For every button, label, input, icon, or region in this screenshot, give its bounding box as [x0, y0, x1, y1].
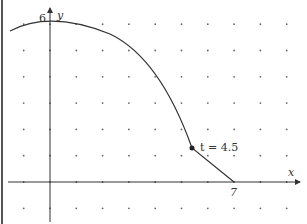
x-axis-label: x	[288, 166, 294, 179]
y-axis-label: y	[57, 9, 63, 22]
grid-dots	[23, 23, 288, 209]
point-t-4-5	[190, 146, 195, 151]
curve	[10, 21, 234, 182]
x-tick-7: 7	[230, 186, 237, 199]
point-label: t = 4.5	[200, 141, 238, 154]
graph	[0, 0, 307, 224]
y-tick-6: 6	[39, 12, 46, 25]
